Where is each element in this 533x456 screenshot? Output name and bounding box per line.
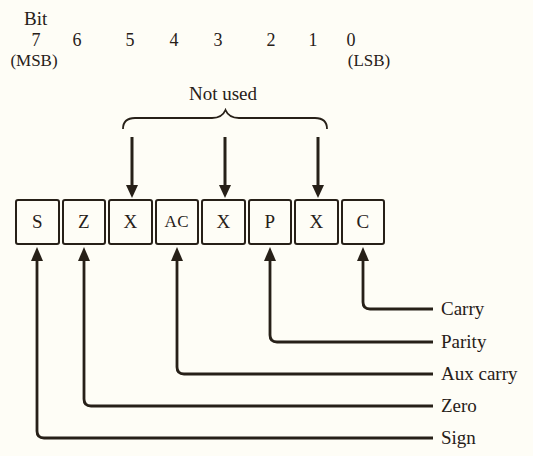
flag-label-parity: Parity [441, 331, 486, 352]
register-cell-bit5-unused: X [108, 199, 153, 245]
flag-label-carry: Carry [441, 298, 484, 319]
bit-number-3: 3 [214, 30, 223, 51]
bit-number-0: 0 [347, 30, 356, 51]
flag-label-sign: Sign [441, 427, 476, 448]
cell-label: X [216, 211, 230, 233]
lsb-label: (LSB) [348, 50, 391, 71]
not-used-label: Not used [189, 83, 257, 104]
bit-number-4: 4 [170, 30, 179, 51]
register-cell-bit1-unused: X [294, 199, 339, 245]
connector-parity [264, 247, 433, 342]
register-cell-bit2-parity: P [248, 199, 293, 245]
down-arrow-bit1 [312, 137, 324, 198]
bit-number-6: 6 [73, 30, 82, 51]
flag-label-aux-carry: Aux carry [441, 363, 518, 384]
connector-carry [357, 247, 433, 309]
bit-number-7: 7 [32, 30, 41, 51]
connector-aux-carry [171, 247, 433, 374]
register-cell-bit0-carry: C [341, 199, 386, 245]
cell-label: C [356, 211, 369, 233]
bit-number-1: 1 [309, 30, 318, 51]
bit-number-2: 2 [267, 30, 276, 51]
register-cell-bit4-auxcarry: AC [155, 199, 200, 245]
bit-scale-title: Bit [24, 8, 47, 29]
cell-label: X [123, 211, 137, 233]
register-cell-bit3-unused: X [201, 199, 246, 245]
not-used-brace [123, 110, 327, 129]
cell-label: X [309, 211, 323, 233]
cell-label: AC [164, 212, 189, 232]
flag-register-diagram: Bit 7 6 5 4 3 2 1 0 (MSB) (LSB) Not used… [0, 0, 533, 456]
bit-number-5: 5 [126, 30, 135, 51]
register-cell-bit6-zero: Z [62, 199, 107, 245]
flag-label-zero: Zero [441, 395, 477, 416]
cell-label: S [32, 211, 43, 233]
cell-label: Z [78, 211, 90, 233]
cell-label: P [264, 211, 275, 233]
down-arrow-bit5 [126, 137, 138, 198]
connector-zero [78, 247, 433, 406]
down-arrow-bit3 [219, 137, 231, 198]
msb-label: (MSB) [10, 50, 57, 71]
flag-register-box: S Z X AC X P X C [15, 199, 385, 245]
register-cell-bit7-sign: S [15, 199, 60, 245]
